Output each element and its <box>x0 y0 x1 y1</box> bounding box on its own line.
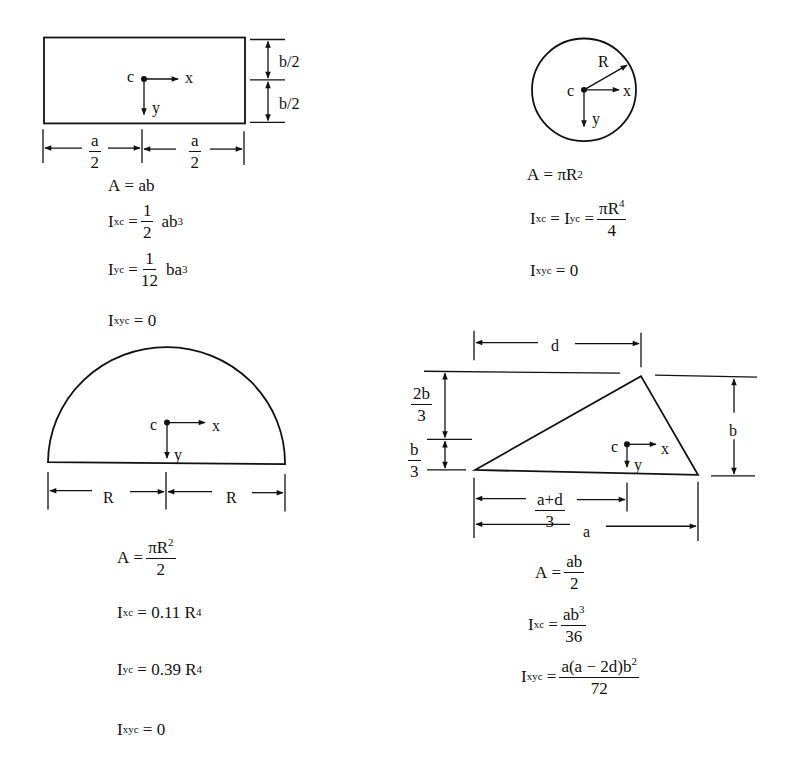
semicircle-y-axis-label: y <box>174 447 182 463</box>
triangle-b-third-label: b3 <box>405 441 424 480</box>
rect-half-b-top-label: b/2 <box>279 54 299 70</box>
circle-area-formula: A = πR2 <box>527 166 583 183</box>
triangle-a-label: a <box>583 524 590 540</box>
rect-half-b-bottom-label: b/2 <box>279 96 299 112</box>
triangle-shape <box>424 331 757 541</box>
rect-half-a-left-label: a2 <box>86 132 104 171</box>
rect-iyc-formula: Iyc = 112 ba3 <box>108 250 187 289</box>
triangle-centroid-label: c <box>611 439 618 455</box>
triangle-b-label: b <box>729 423 737 439</box>
circle-ixyc-formula: Ixyc = 0 <box>530 262 578 279</box>
triangle-x-axis-label: x <box>661 441 669 457</box>
circle-radius-label: R <box>598 54 609 70</box>
triangle-two-b-third-label: 2b3 <box>408 385 435 424</box>
rect-x-axis-label: x <box>185 70 193 86</box>
triangle-centroid-dot <box>624 441 630 447</box>
rect-y-axis-label: y <box>152 100 160 116</box>
semicircle-shape <box>48 347 285 511</box>
triangle-d-label: d <box>551 338 559 354</box>
semicircle-iyc-formula: Iyc = 0.39 R4 <box>117 661 202 678</box>
semicircle-ixc-formula: Ixc = 0.11 R4 <box>117 604 201 621</box>
rect-area-formula: A = ab <box>108 177 154 194</box>
semicircle-centroid-dot <box>164 420 170 426</box>
rect-centroid-label: c <box>127 69 134 85</box>
circle-ixc-iyc-formula: Ixc = Iyc = πR44 <box>530 198 629 239</box>
circle-centroid-label: c <box>567 83 574 99</box>
circle-x-axis-label: x <box>623 83 631 99</box>
rect-centroid-dot <box>141 76 147 82</box>
rect-half-a-right-label: a2 <box>186 132 204 171</box>
triangle-y-axis-label: y <box>634 457 642 473</box>
semicircle-r-left-label: R <box>103 490 114 506</box>
semicircle-r-right-label: R <box>226 490 237 506</box>
triangle-a-plus-d-third-label: a+d3 <box>532 491 568 530</box>
rect-ixyc-formula: Ixyc = 0 <box>108 312 156 329</box>
triangle-area-formula: A = ab2 <box>535 553 587 592</box>
triangle-ixc-formula: Ixc = ab336 <box>528 604 589 645</box>
semicircle-x-axis-label: x <box>212 418 220 434</box>
circle-centroid-dot <box>581 87 587 93</box>
triangle-ixyc-formula: Ixyc = a(a − 2d)b272 <box>521 656 642 697</box>
circle-y-axis-label: y <box>592 111 600 127</box>
rectangle-shape <box>43 38 285 165</box>
semicircle-ixyc-formula: Ixyc = 0 <box>117 721 165 738</box>
semicircle-centroid-label: c <box>150 417 157 433</box>
semicircle-area-formula: A = πR22 <box>117 537 179 578</box>
rect-ixc-formula: Ixc = 12 ab3 <box>108 202 183 241</box>
